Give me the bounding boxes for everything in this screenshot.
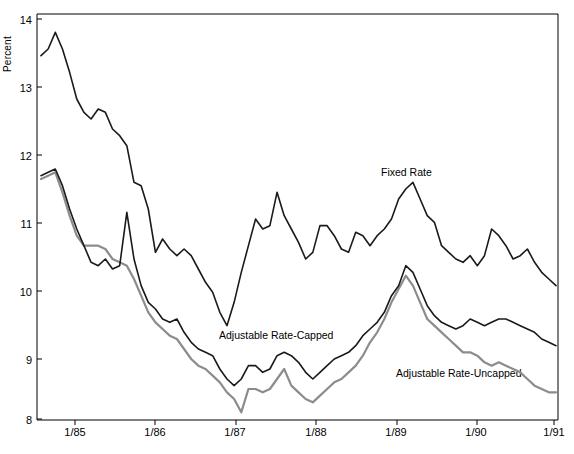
chart-container: Percent 14 13 12 11 10 9 8 1/85 1/86 1/8… [0, 0, 574, 454]
series-line-fixed-rate [41, 32, 556, 325]
series-line-adjustable-capped [41, 169, 556, 386]
y-tick-marks [37, 19, 42, 419]
series-line-adjustable-uncapped [41, 172, 556, 412]
chart-plot-area [0, 0, 574, 454]
series-lines [41, 32, 556, 412]
x-tick-marks [75, 420, 554, 425]
